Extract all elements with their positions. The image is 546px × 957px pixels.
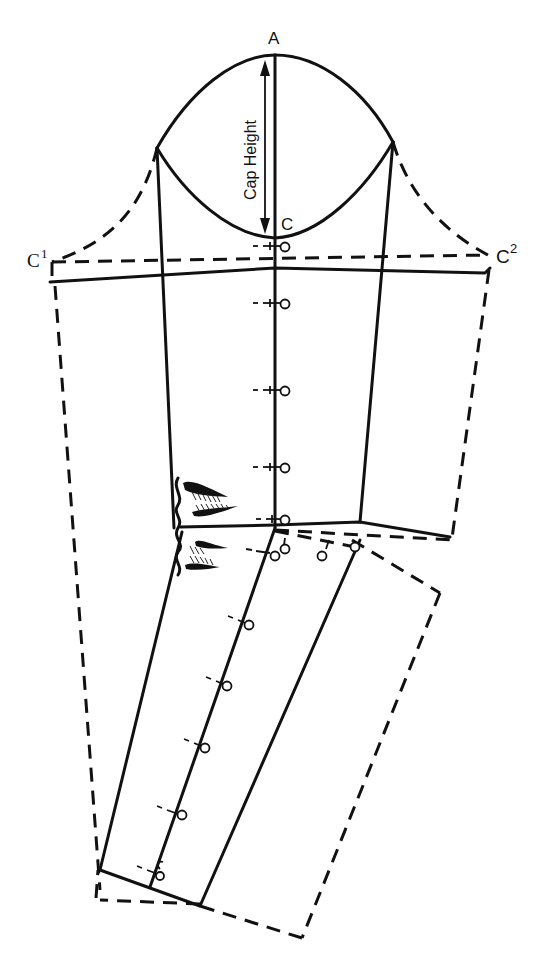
dashed-extension-upper	[52, 142, 489, 890]
pins-elbow	[246, 538, 360, 561]
pin-icon	[256, 515, 290, 525]
pin-icon	[253, 299, 290, 309]
pin-icon	[253, 386, 290, 396]
pins-upper	[253, 242, 290, 525]
pin-icon	[253, 242, 290, 252]
upper-left-seam	[157, 148, 174, 528]
label-c2: C	[496, 246, 510, 267]
label-c2-superscript: 2	[510, 241, 517, 256]
upper-right-seam	[360, 142, 393, 522]
sleeve-pattern-diagram: A C Cap Height C 1 C 2	[0, 0, 546, 957]
pin-icon	[281, 538, 290, 554]
pin-icon	[253, 463, 290, 473]
pin-icon	[137, 862, 164, 880]
dashed-extension-lower	[96, 531, 440, 938]
pin-icon	[351, 543, 360, 552]
label-point-c: C	[281, 215, 293, 234]
label-c1: C	[27, 250, 40, 271]
forearm	[100, 528, 360, 906]
label-cap-height: Cap Height	[242, 119, 259, 200]
cap-height-arrow	[260, 60, 270, 234]
biceps-line	[50, 268, 490, 282]
pins-forearm	[137, 616, 254, 880]
pin-icon	[157, 806, 187, 820]
pin-icon	[318, 540, 330, 561]
label-c1-superscript: 1	[41, 246, 48, 261]
elbow-line	[180, 522, 450, 537]
label-point-a: A	[268, 29, 280, 48]
